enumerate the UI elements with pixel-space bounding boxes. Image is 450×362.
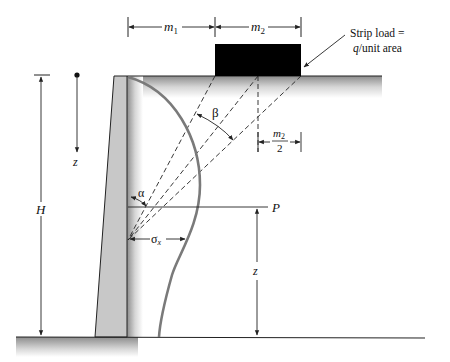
strip-load-pointer-arrow: [304, 35, 345, 67]
z-axis-label: z: [72, 155, 78, 169]
z-depth-label-right: z: [252, 264, 258, 278]
dashed-line-load-right-edge: [128, 76, 301, 240]
beta-label: β: [212, 105, 219, 120]
alpha-label: α: [138, 186, 145, 200]
half-m2-denominator: 2: [277, 142, 283, 154]
base-shadow: [16, 337, 138, 357]
m2-label: m2: [251, 19, 265, 36]
m1-label: m1: [164, 19, 178, 36]
strip-load-retaining-wall-diagram: m1 m2 Strip load = q/unit area β m2 2 P …: [0, 0, 450, 362]
dashed-line-load-centre: [128, 76, 258, 240]
strip-load-label: Strip load =: [350, 27, 404, 40]
half-m2-numerator: m2: [273, 127, 285, 141]
strip-load-block: [215, 44, 301, 76]
dashed-influence-lines: [128, 76, 301, 240]
strip-load-unit-label: q/unit area: [353, 42, 402, 55]
H-label: H: [35, 202, 46, 217]
sigma-x-label: σx: [151, 232, 161, 247]
point-P-label: P: [271, 200, 280, 215]
retaining-wall: [95, 76, 127, 337]
ground-surface-shading: [127, 76, 382, 98]
